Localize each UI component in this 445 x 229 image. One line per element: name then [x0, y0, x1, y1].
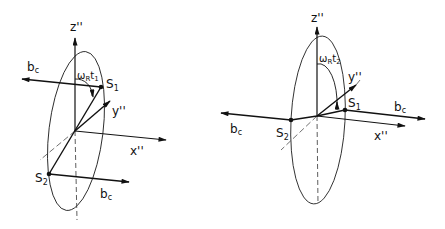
angle-label: ωRt1	[77, 70, 99, 83]
bc-bottom-label: bc	[100, 187, 112, 202]
y-axis-label: y''	[112, 104, 126, 118]
point-s2	[289, 118, 294, 123]
s2-label: S2	[35, 171, 48, 187]
s1-label: S1	[106, 77, 119, 93]
x-axis	[75, 131, 166, 140]
point-s2	[47, 172, 52, 177]
s1-label: S1	[348, 96, 361, 112]
left-diagram: z'' y'' x'' S1 S2 bc bc ωRt1	[22, 20, 166, 220]
z-axis-label: z''	[311, 11, 324, 25]
angle-arc	[317, 64, 337, 108]
y-axis-back	[40, 131, 75, 160]
x-axis	[317, 116, 405, 126]
bc-left-label: bc	[230, 122, 242, 137]
x-axis-label: x''	[130, 144, 144, 158]
z-axis-label: z''	[70, 20, 83, 34]
s2-label: S2	[276, 126, 289, 142]
z-axis-dashed	[317, 116, 318, 204]
y-axis-label: y''	[348, 70, 362, 84]
bc-vector-bottom	[49, 174, 129, 182]
point-s1	[99, 85, 104, 90]
rotation-diagram: z'' y'' x'' S1 S2 bc bc ωRt1 z'' y'	[0, 0, 445, 229]
right-diagram: z'' y'' x'' S1 S2 bc bc ωRt2	[221, 11, 425, 205]
x-axis-label: x''	[374, 129, 388, 143]
point-s1	[343, 108, 348, 113]
bc-top-label: bc	[27, 60, 39, 75]
bc-right-label: bc	[394, 100, 406, 115]
bc-vector-left	[221, 113, 291, 120]
